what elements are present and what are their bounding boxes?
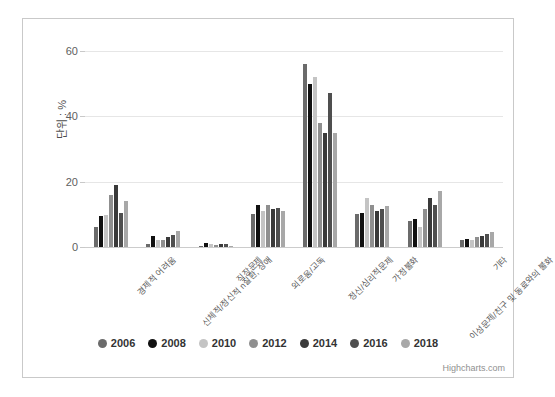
x-tick-label: 기타 (490, 253, 510, 273)
x-tick-label: 정신/심리적문제 (345, 253, 395, 303)
bar-2016[interactable] (119, 213, 123, 247)
legend-swatch-icon (98, 339, 107, 348)
bar-group (137, 51, 189, 247)
bar-2010[interactable] (261, 211, 265, 247)
x-tick-label: 경제적 어려움 (134, 253, 178, 297)
bar-group (190, 51, 242, 247)
legend-item-2012[interactable]: 2012 (249, 337, 286, 349)
y-tick-label-60: 60 (66, 45, 78, 57)
x-tick-label: 신체적/정신적 n질환, 장애 (199, 253, 274, 328)
bar-2006[interactable] (303, 64, 307, 247)
bar-2016[interactable] (224, 244, 228, 247)
legend-swatch-icon (300, 339, 309, 348)
bar-2018[interactable] (438, 191, 442, 247)
bar-group (399, 51, 451, 247)
bar-2012[interactable] (161, 240, 165, 247)
bar-2018[interactable] (385, 206, 389, 247)
bar-2012[interactable] (423, 209, 427, 247)
legend-label: 2008 (161, 337, 185, 349)
bar-2018[interactable] (176, 231, 180, 247)
legend-item-2006[interactable]: 2006 (98, 337, 135, 349)
legend-swatch-icon (249, 339, 258, 348)
bar-group (85, 51, 137, 247)
legend-label: 2012 (262, 337, 286, 349)
bar-2008[interactable] (204, 243, 208, 247)
legend-swatch-icon (401, 339, 410, 348)
bar-2006[interactable] (199, 246, 203, 247)
bar-2010[interactable] (470, 240, 474, 247)
bar-2010[interactable] (156, 240, 160, 247)
legend-item-2016[interactable]: 2016 (350, 337, 387, 349)
bar-2014[interactable] (480, 236, 484, 247)
chart-frame: 단위 : % 0204060 경제적 어려움신체적/정신적 n질환, 장애직장문… (22, 18, 514, 378)
bar-2012[interactable] (370, 205, 374, 247)
bar-2006[interactable] (94, 227, 98, 247)
bar-2016[interactable] (276, 208, 280, 247)
bar-2016[interactable] (433, 205, 437, 247)
bar-2016[interactable] (380, 209, 384, 247)
legend-item-2008[interactable]: 2008 (148, 337, 185, 349)
bar-2016[interactable] (171, 235, 175, 247)
bar-groups (85, 51, 503, 247)
bar-2014[interactable] (428, 198, 432, 247)
bar-2018[interactable] (281, 211, 285, 247)
legend-label: 2014 (313, 337, 337, 349)
bar-2012[interactable] (109, 195, 113, 247)
bar-2006[interactable] (251, 214, 255, 247)
legend-label: 2018 (414, 337, 438, 349)
legend-swatch-icon (148, 339, 157, 348)
y-tick-label-40: 40 (66, 110, 78, 122)
legend-label: 2010 (212, 337, 236, 349)
bar-2014[interactable] (114, 185, 118, 247)
plot-area: 0204060 (85, 51, 503, 247)
bar-2006[interactable] (355, 214, 359, 247)
bar-2012[interactable] (318, 123, 322, 247)
bar-2014[interactable] (271, 209, 275, 247)
bar-2014[interactable] (375, 211, 379, 247)
legend-label: 2016 (363, 337, 387, 349)
bar-2008[interactable] (360, 213, 364, 247)
bar-group (346, 51, 398, 247)
legend-swatch-icon (350, 339, 359, 348)
legend-item-2014[interactable]: 2014 (300, 337, 337, 349)
bar-2014[interactable] (323, 133, 327, 247)
legend-swatch-icon (199, 339, 208, 348)
bar-2006[interactable] (460, 240, 464, 247)
legend-label: 2006 (111, 337, 135, 349)
x-tick-label: 이성문제/친구 및 동료와의 불화 (466, 253, 555, 342)
credits-label[interactable]: Highcharts.com (442, 363, 505, 373)
bar-2018[interactable] (124, 201, 128, 247)
bar-2018[interactable] (333, 133, 337, 247)
bar-2018[interactable] (490, 232, 494, 247)
bar-2016[interactable] (485, 234, 489, 247)
bar-2010[interactable] (418, 227, 422, 247)
bar-2008[interactable] (151, 236, 155, 247)
bar-2012[interactable] (214, 245, 218, 247)
bar-2008[interactable] (99, 216, 103, 247)
bar-2006[interactable] (408, 221, 412, 247)
bar-2016[interactable] (328, 93, 332, 247)
bar-2012[interactable] (475, 237, 479, 247)
bar-2006[interactable] (146, 244, 150, 247)
bar-2008[interactable] (413, 219, 417, 247)
bar-2008[interactable] (308, 84, 312, 247)
chart-legend: 2006200820102012201420162018 (23, 337, 513, 349)
bar-2014[interactable] (219, 244, 223, 247)
bar-2018[interactable] (229, 246, 233, 247)
bar-group (294, 51, 346, 247)
bar-2010[interactable] (209, 244, 213, 247)
bar-2014[interactable] (166, 237, 170, 247)
bar-2010[interactable] (104, 215, 108, 247)
y-tick-mark-0 (80, 247, 85, 248)
x-axis-line (85, 247, 503, 248)
bar-2008[interactable] (465, 239, 469, 247)
bar-group (242, 51, 294, 247)
x-tick-label: 가정불화 (390, 253, 421, 284)
bar-2008[interactable] (256, 205, 260, 247)
legend-item-2010[interactable]: 2010 (199, 337, 236, 349)
bar-2010[interactable] (365, 198, 369, 247)
y-tick-label-0: 0 (72, 241, 78, 253)
bar-2010[interactable] (313, 77, 317, 247)
legend-item-2018[interactable]: 2018 (401, 337, 438, 349)
bar-2012[interactable] (266, 205, 270, 247)
